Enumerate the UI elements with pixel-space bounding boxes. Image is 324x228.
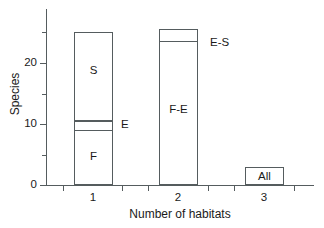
x-tick-boundary-0 [63, 186, 64, 191]
y-tick-label-10: 10 [24, 118, 37, 130]
x-axis-line [46, 185, 314, 186]
x-tick-boundary-4 [234, 186, 235, 191]
chart-figure: 20 10 0 1 2 3 Species Number of habitats… [0, 0, 324, 228]
x-tick-boundary-1 [122, 186, 123, 191]
y-tick-0 [40, 185, 46, 186]
bar1-segment-E-label: E [121, 119, 129, 131]
bar-category-2: F-E [159, 29, 198, 185]
y-axis-title: Species [9, 59, 21, 129]
bar2-segment-E-S-label: E-S [210, 37, 229, 49]
y-tick-minor-15 [42, 94, 46, 95]
x-tick-label-2: 2 [163, 191, 193, 203]
x-tick-boundary-2 [148, 186, 149, 191]
bar2-segment-E-S [159, 29, 198, 42]
x-tick-label-1: 1 [78, 191, 108, 203]
y-tick-20 [40, 63, 46, 64]
bar1-segment-S-label: S [75, 65, 112, 77]
bar1-segment-S: S [74, 32, 113, 121]
x-tick-boundary-3 [208, 186, 209, 191]
y-tick-label-20: 20 [24, 57, 37, 69]
bar-category-3: All [245, 167, 284, 185]
bar3-segment-All-label: All [246, 171, 283, 183]
bar1-segment-F-label: F [75, 151, 112, 163]
y-tick-minor-25 [42, 32, 46, 33]
bar1-segment-F: F [74, 130, 113, 185]
bar3-segment-All: All [245, 167, 284, 185]
y-axis-line [46, 9, 47, 186]
bar1-segment-E [74, 121, 113, 131]
bar2-segment-F-E-label: F-E [160, 104, 197, 116]
bar2-segment-F-E: F-E [159, 41, 198, 185]
bar-category-1: F S [74, 32, 113, 185]
x-tick-boundary-5 [294, 186, 295, 191]
y-tick-label-0: 0 [31, 179, 37, 191]
y-tick-10 [40, 124, 46, 125]
x-tick-label-3: 3 [249, 191, 279, 203]
y-tick-minor-5 [42, 155, 46, 156]
x-axis-title: Number of habitats [46, 208, 314, 220]
